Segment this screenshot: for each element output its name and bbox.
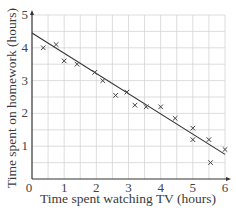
scatter-chart: 0123456 12345 Time spent watching TV (ho… [0,0,236,211]
x-tick-label: 0 [26,180,33,195]
y-tick-label: 1 [22,138,29,153]
y-axis-arrow-icon [30,10,34,15]
y-tick-label: 3 [22,73,29,88]
x-tick-label: 6 [222,180,229,195]
y-tick-labels: 12345 [22,7,29,153]
x-marker-icon [133,103,138,108]
y-tick-label: 5 [22,7,29,22]
y-axis-label: Time spent on homework (hours) [4,8,19,188]
grid-lines [32,15,225,179]
y-tick-label: 4 [22,40,29,55]
x-marker-icon [54,42,59,47]
x-axis-label: Time spent watching TV (hours) [40,191,216,206]
y-tick-label: 2 [22,105,29,120]
